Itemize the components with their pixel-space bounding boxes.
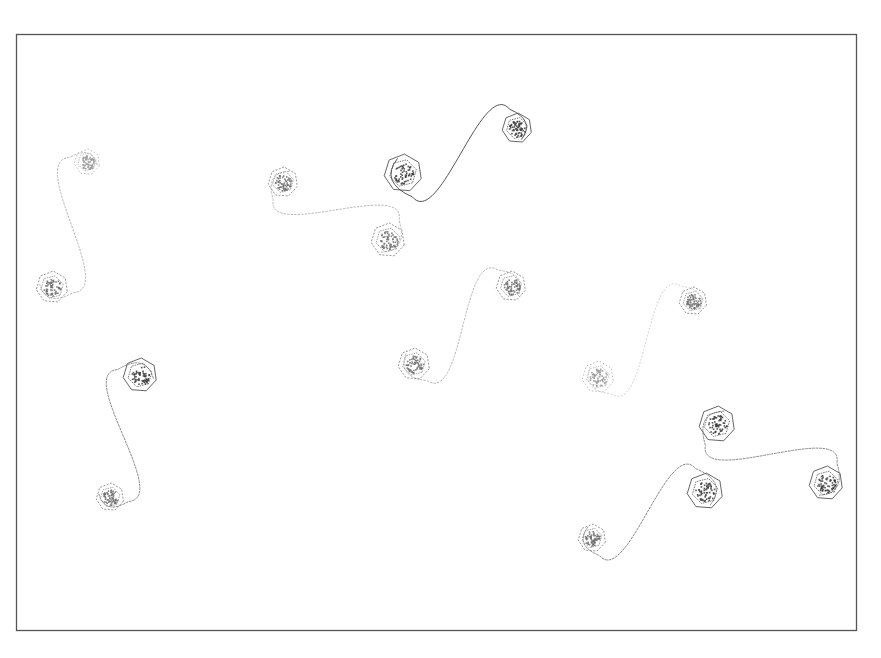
vortex-core (36, 271, 67, 302)
vortex-core (502, 113, 531, 142)
vortex-pairs (36, 105, 842, 560)
vortex-pair (578, 464, 722, 560)
vortex-pair (36, 149, 99, 302)
streamline (40, 153, 98, 299)
vortex-core (687, 473, 722, 508)
vortex-figure (0, 0, 881, 658)
vortex-core (371, 223, 404, 256)
vortex-pair (268, 167, 404, 256)
vortex-core (496, 271, 525, 300)
figure-frame (17, 35, 857, 631)
vortex-core (74, 149, 99, 174)
vortex-core (398, 348, 429, 379)
vortex-core (582, 361, 613, 392)
streamline (391, 105, 527, 202)
vortex-core (699, 406, 734, 441)
vortex-core (679, 287, 706, 314)
vortex-pair (384, 105, 531, 202)
vortex-pair (582, 284, 706, 396)
vortex-core (384, 154, 421, 191)
streamline (583, 464, 716, 560)
vortex-core (578, 524, 605, 551)
vortex-pair (398, 268, 525, 383)
vortex-pair (96, 358, 156, 510)
